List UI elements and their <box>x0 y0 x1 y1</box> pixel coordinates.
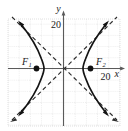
x-tick-label-20: 20 <box>101 71 111 82</box>
focus-left-subscript: 1 <box>29 61 32 68</box>
focus-right-point <box>88 66 94 72</box>
y-axis-label: y <box>55 3 61 14</box>
hyperbola-figure: y 20 20 x F 1 F 2 <box>0 0 128 131</box>
focus-left-point <box>34 66 40 72</box>
y-tick-label-20: 20 <box>51 19 61 30</box>
x-axis-label: x <box>114 68 120 79</box>
hyperbola-plot: y 20 20 x F 1 F 2 <box>0 0 128 131</box>
